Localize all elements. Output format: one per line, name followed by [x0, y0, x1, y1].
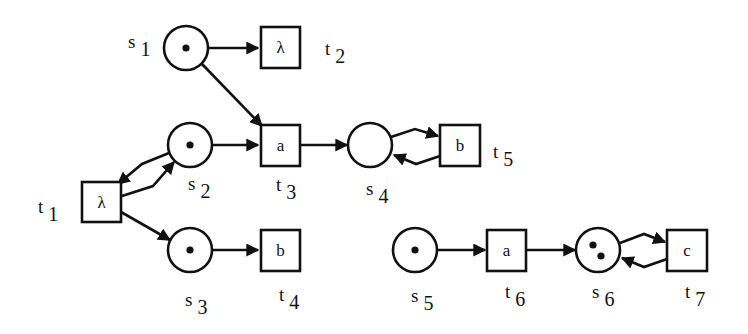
token — [182, 44, 189, 51]
transition-t7: c t7 — [667, 230, 707, 310]
transition-action-label: c — [683, 241, 691, 260]
token — [186, 141, 193, 148]
place-label: s1 — [128, 31, 150, 60]
transition-label: t5 — [493, 141, 513, 170]
arc-t1-s2 — [122, 162, 174, 196]
place-label: s2 — [188, 173, 210, 202]
arc-t7-s6 — [622, 258, 667, 267]
petri-net-diagram: s1 s2 s3 s4 s5 s6 λ t1 λ t2 a t3 — [0, 0, 748, 334]
transition-label: t6 — [505, 281, 525, 310]
transition-action-label: λ — [97, 193, 106, 212]
token — [597, 252, 604, 259]
arc-s1-t3 — [202, 64, 262, 126]
transition-action-label: b — [456, 136, 465, 155]
place-s5: s5 — [393, 228, 437, 314]
arc-s2-t1 — [118, 153, 169, 184]
arc-t5-s4 — [394, 155, 440, 164]
transition-label: t2 — [325, 38, 345, 67]
transition-label: t4 — [279, 284, 299, 313]
transition-label: t1 — [38, 196, 58, 225]
place-s2: s2 — [168, 123, 212, 202]
transition-action-label: a — [503, 241, 511, 260]
transition-t5: b t5 — [440, 125, 513, 170]
transition-label: t7 — [685, 281, 705, 310]
arc-t1-s3 — [121, 212, 170, 240]
transition-t2: λ t2 — [261, 27, 345, 68]
token — [186, 246, 193, 253]
place-label: s4 — [366, 178, 388, 207]
transition-t1: λ t1 — [38, 182, 121, 225]
transition-label: t3 — [276, 174, 296, 203]
transition-action-label: λ — [276, 38, 285, 57]
place-circle — [576, 228, 620, 272]
transition-t3: a t3 — [261, 125, 300, 203]
place-label: s6 — [592, 281, 614, 310]
transition-action-label: b — [276, 241, 285, 260]
transition-action-label: a — [277, 136, 285, 155]
place-s1: s1 — [128, 26, 208, 70]
place-s3: s3 — [168, 228, 212, 318]
place-circle — [348, 123, 392, 167]
place-s4: s4 — [348, 123, 392, 207]
arc-s6-t7 — [620, 234, 665, 243]
place-label: s5 — [411, 285, 433, 314]
place-s6: s6 — [576, 228, 620, 310]
place-label: s3 — [185, 289, 207, 318]
transition-t6: a t6 — [487, 230, 526, 310]
arc-s4-t5 — [391, 129, 438, 137]
transition-t4: b t4 — [261, 230, 300, 313]
token — [411, 246, 418, 253]
token — [589, 241, 596, 248]
